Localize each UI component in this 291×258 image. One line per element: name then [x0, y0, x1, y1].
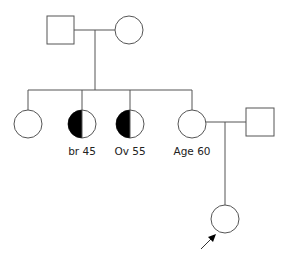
aunt-1-circle [14, 110, 42, 138]
grandfather-square [47, 16, 74, 44]
proband-arrow-icon [201, 234, 216, 249]
mother-label: Age 60 [173, 145, 210, 157]
aunt-3-label: Ov 55 [114, 145, 145, 157]
aunt-3-half-affected-circle [116, 110, 144, 138]
proband-circle [211, 205, 239, 233]
pedigree-diagram: br 45 Ov 55 Age 60 [0, 0, 291, 258]
grandmother-circle [115, 16, 143, 44]
aunt-2-label: br 45 [68, 145, 96, 157]
aunt-2-half-affected-circle [68, 110, 96, 138]
pedigree-canvas [0, 0, 291, 258]
mother-circle [178, 110, 206, 138]
father-square [246, 108, 274, 136]
